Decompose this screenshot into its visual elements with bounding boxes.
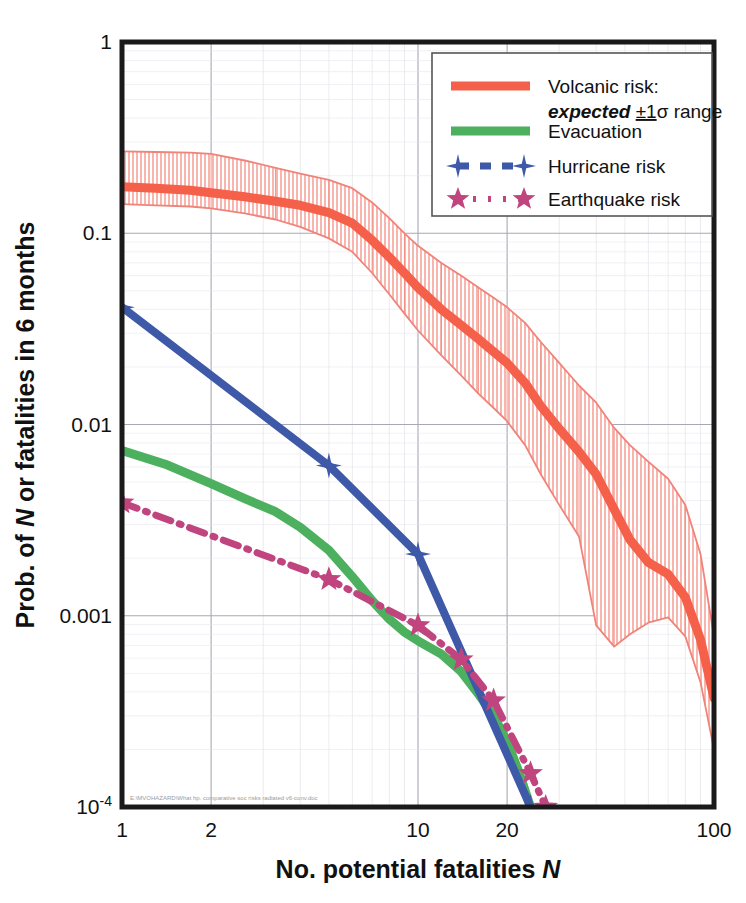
footnote-path: E:\MVOHAZARD\What hp. comparative soc ri…	[130, 795, 318, 801]
x-tick-1: 1	[116, 818, 128, 841]
legend-label-3: Hurricane risk	[548, 156, 666, 177]
chart-legend: Volcanic risk:expected ±1σ rangeEvacuati…	[432, 53, 722, 216]
chart-figure: E:\MVOHAZARD\What hp. comparative soc ri…	[0, 0, 746, 903]
risk-comparison-chart: E:\MVOHAZARD\What hp. comparative soc ri…	[0, 0, 746, 903]
x-tick-10: 10	[406, 818, 429, 841]
y-tick-0.1: 0.1	[83, 221, 112, 244]
legend-label-1: Volcanic risk:	[548, 76, 659, 97]
legend-label-4: Earthquake risk	[548, 189, 681, 210]
x-tick-20: 20	[495, 818, 518, 841]
y-tick-0.01: 0.01	[71, 413, 112, 436]
y-axis-title: Prob. of N or fatalities in 6 months	[11, 221, 39, 628]
legend-label-1-sub: expected ±1σ range	[548, 101, 722, 122]
y-tick-0.001: 0.001	[59, 604, 112, 627]
x-tick-100: 100	[696, 818, 731, 841]
y-tick-1: 1	[100, 30, 112, 53]
x-tick-2: 2	[205, 818, 217, 841]
x-axis-title: No. potential fatalities N	[276, 855, 562, 883]
legend-label-2: Evacuation	[548, 121, 642, 142]
